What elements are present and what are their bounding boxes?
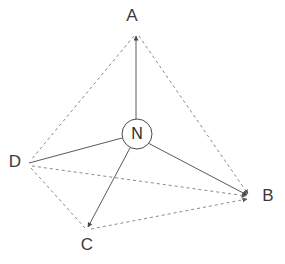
central-atom-label: N — [131, 125, 143, 142]
edge-D-B — [32, 166, 246, 196]
edge-D-C — [31, 168, 85, 228]
edge-A-D — [31, 36, 134, 160]
bond-N-D — [29, 138, 122, 163]
edge-A-B — [139, 36, 248, 194]
vertex-label-b: B — [262, 186, 273, 205]
vertex-label-a: A — [126, 6, 138, 25]
bond-N-C — [88, 148, 130, 227]
vertex-label-c: C — [81, 235, 93, 254]
bond-N-B — [148, 143, 247, 195]
tetrahedral-diagram-canvas: N A B C D — [0, 0, 285, 264]
vertex-label-d: D — [9, 152, 21, 171]
edge-C-B — [91, 199, 247, 229]
tetrahedron-svg: N A B C D — [0, 0, 285, 264]
